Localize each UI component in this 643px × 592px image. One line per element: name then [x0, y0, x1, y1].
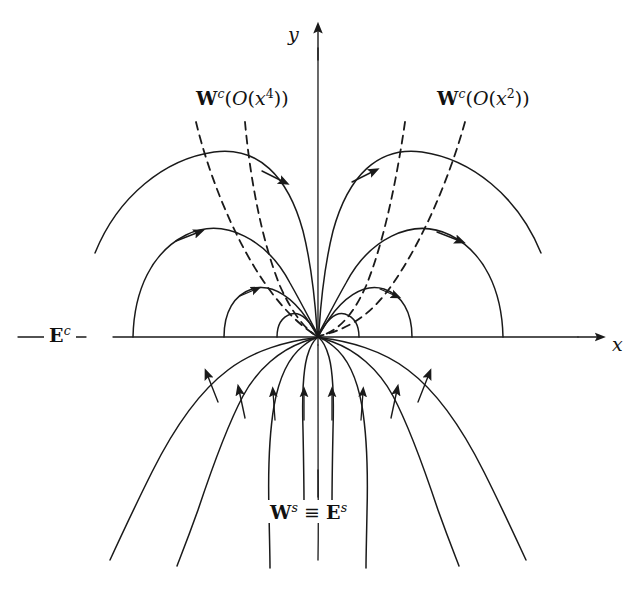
trajectory-lower-right-outer	[318, 337, 526, 560]
label-ec-E: E	[49, 324, 64, 346]
label-wc-x4-paren-open: (	[225, 87, 232, 109]
label-wc-x4-W: W	[196, 87, 218, 109]
label-ws-es: Ws ≡ Es	[262, 500, 355, 523]
phase-portrait-figure: Wc(O(x4)) Wc(O(x2)) Ec Ws ≡ Es y x	[0, 0, 643, 592]
label-wc-x4-calO: O	[232, 87, 248, 109]
trajectory-lower-right-inner	[318, 337, 367, 568]
label-wc-x2-arg-open: (	[489, 87, 496, 109]
trajectory-lower-right-tiny	[318, 337, 333, 506]
label-wc-x2-W: W	[437, 87, 459, 109]
label-wc-x2-sup: c	[459, 86, 466, 101]
label-ws-sup: s	[292, 500, 298, 515]
label-wc-x2-exp: 2	[507, 86, 515, 101]
label-wc-x2-arg-close: )	[515, 87, 522, 109]
label-axis-y: y	[288, 23, 299, 45]
trajectory-lower-left-mid	[177, 337, 318, 566]
label-wc-x4-paren-close: )	[281, 87, 288, 109]
label-wc-x2-paren-open: (	[466, 87, 473, 109]
label-wc-x4-exp: 4	[266, 86, 274, 101]
trajectory-lower-left-tiny	[303, 337, 318, 506]
trajectory-lower-right-mid	[318, 337, 459, 566]
trajectory-upper-left-inner	[224, 288, 318, 337]
label-ws-equiv: ≡	[304, 501, 320, 523]
label-wc-x4-sup: c	[218, 86, 225, 101]
label-ws-W: W	[270, 501, 292, 523]
label-wc-x2-var: x	[496, 87, 507, 109]
label-wc-x2: Wc(O(x2))	[437, 86, 530, 109]
label-wc-x4: Wc(O(x4))	[196, 86, 289, 109]
label-es-E: E	[326, 501, 341, 523]
label-es-sup: s	[341, 500, 347, 515]
label-wc-x4-arg-open: (	[248, 87, 255, 109]
label-wc-x2-calO: O	[473, 87, 489, 109]
label-wc-x4-var: x	[255, 87, 266, 109]
label-axis-x: x	[612, 333, 623, 355]
label-wc-x4-arg-close: )	[274, 87, 281, 109]
trajectory-upper-right-inner	[318, 288, 412, 337]
label-ec: Ec	[44, 323, 76, 346]
label-wc-x2-paren-close: )	[522, 87, 529, 109]
trajectory-lower-left-inner	[269, 337, 318, 568]
trajectory-upper-left-outer	[95, 151, 318, 337]
label-ec-sup: c	[64, 323, 71, 338]
trajectory-lower-left-outer	[110, 337, 318, 560]
trajectory-upper-right-outer	[318, 151, 541, 337]
